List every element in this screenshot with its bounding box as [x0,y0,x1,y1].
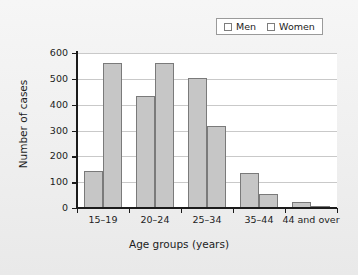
bar-women-3[interactable] [259,194,278,208]
bar-men-2[interactable] [188,78,207,208]
x-axis-category-label: 35–44 [245,215,274,225]
y-axis-tick [72,182,77,183]
y-axis-tick [72,53,77,54]
legend-label-women: Women [279,22,315,32]
x-axis-category-label: 20–24 [141,215,170,225]
x-axis-tick [233,208,234,213]
y-axis-tick-label: 300 [28,126,68,136]
legend-swatch-women [267,23,275,31]
bar-women-2[interactable] [207,126,226,208]
legend-entry-men[interactable]: Men [224,22,256,32]
y-axis-tick [72,156,77,157]
x-axis-tick [285,208,286,213]
x-axis-tick [77,208,78,213]
y-axis-tick [72,105,77,106]
y-axis-tick-label: 400 [28,100,68,110]
chart-figure: Men Women 010020030040050060015–1920–242… [0,0,358,275]
y-axis-title: Number of cases [17,54,29,194]
x-axis-tick [129,208,130,213]
bar-men-3[interactable] [240,173,259,208]
y-axis-tick-label: 0 [28,203,68,213]
chart-legend: Men Women [216,18,323,35]
legend-swatch-men [224,23,232,31]
legend-label-men: Men [236,22,256,32]
y-axis-tick [72,131,77,132]
x-axis-category-label: 25–34 [193,215,222,225]
gridline [77,53,337,54]
x-axis-tick [337,208,338,213]
x-axis-category-label: 15–19 [89,215,118,225]
bar-women-1[interactable] [155,63,174,208]
y-axis-tick [72,79,77,80]
y-axis-tick-label: 500 [28,74,68,84]
y-axis-tick-label: 200 [28,151,68,161]
x-axis-line [76,207,337,209]
plot-area [77,53,337,208]
y-axis-tick-label: 100 [28,177,68,187]
bar-men-0[interactable] [84,171,103,208]
y-axis-tick-label: 600 [28,48,68,58]
x-axis-title: Age groups (years) [0,238,358,250]
x-axis-category-label: 44 and over [282,215,339,225]
bar-women-0[interactable] [103,63,122,208]
x-axis-tick [181,208,182,213]
legend-entry-women[interactable]: Women [267,22,315,32]
bar-men-1[interactable] [136,96,155,208]
